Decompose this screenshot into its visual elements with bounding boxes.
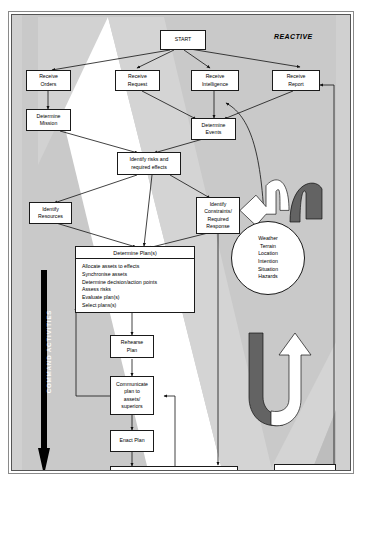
- left-edge-strip: [12, 15, 22, 470]
- circle-item: Location: [258, 250, 278, 258]
- label-reactive: REACTIVE: [274, 33, 313, 40]
- plan-item: Allocate assets to effects: [82, 263, 194, 271]
- knowledge-circle-list: Weather Terrain Location Intention Situa…: [258, 235, 278, 280]
- node-identify-resources[interactable]: Identify Resources: [29, 202, 72, 224]
- bottom-arc-arrow: [227, 325, 337, 430]
- node-request-situation-report[interactable]: Request Situation Report: [274, 464, 336, 471]
- plan-item: Assess risks: [82, 286, 194, 294]
- circle-item: Intention: [258, 258, 278, 266]
- command-activities-label: COMMAND ACTIVITIES: [45, 277, 52, 427]
- circle-item: Weather: [258, 235, 278, 243]
- top-arc-arrow: [230, 167, 330, 227]
- plan-item: Determine decision/action points: [82, 279, 194, 287]
- circle-item: Terrain: [258, 243, 278, 251]
- node-identify-risks[interactable]: Identify risks and required effects: [117, 152, 181, 175]
- knowledge-circle: Weather Terrain Location Intention Situa…: [231, 221, 305, 295]
- node-receive-report[interactable]: Receive Report: [272, 70, 320, 91]
- diagram-page: START Receive Orders Receive Request Rec…: [0, 0, 365, 536]
- node-receive-orders[interactable]: Receive Orders: [26, 70, 71, 91]
- node-start[interactable]: START: [160, 30, 206, 50]
- node-identify-constraints[interactable]: Identify Constraints/ Required Response: [196, 197, 240, 234]
- node-determine-mission[interactable]: Determine Mission: [26, 109, 71, 131]
- top-arc-white-arrow: [240, 180, 289, 226]
- circle-item: Hazards: [258, 273, 278, 281]
- node-determine-events[interactable]: Determine Events: [191, 118, 236, 140]
- circle-item: Situation: [258, 266, 278, 274]
- node-enact-plan[interactable]: Enact Plan: [110, 430, 154, 452]
- node-receive-intelligence[interactable]: Receive Intelligence: [191, 70, 239, 91]
- bottom-arc-white-arrow: [271, 333, 311, 426]
- node-communicate-plan[interactable]: Communicate plan to assets/ superiors: [110, 376, 154, 415]
- plan-item: Evaluate plan(s): [82, 294, 194, 302]
- right-edge-strip: [336, 15, 350, 470]
- diagram-canvas: START Receive Orders Receive Request Rec…: [11, 14, 351, 471]
- top-arc-dark-half: [290, 183, 322, 222]
- plan-item: Select plans(s): [82, 302, 194, 310]
- node-monitor-progress[interactable]: Monitor progress and review: [110, 466, 238, 471]
- node-receive-request[interactable]: Receive Request: [115, 70, 160, 91]
- node-rehearse-plan[interactable]: Rehearse Plan: [110, 335, 154, 358]
- determine-plans-list: Allocate assets to effects Synchronise a…: [76, 259, 194, 313]
- plan-item: Synchronise assets: [82, 271, 194, 279]
- determine-plans-title: Determine Plan(s): [76, 247, 194, 259]
- command-activities-arrow: COMMAND ACTIVITIES: [38, 270, 50, 471]
- node-determine-plans[interactable]: Determine Plan(s) Allocate assets to eff…: [75, 246, 195, 313]
